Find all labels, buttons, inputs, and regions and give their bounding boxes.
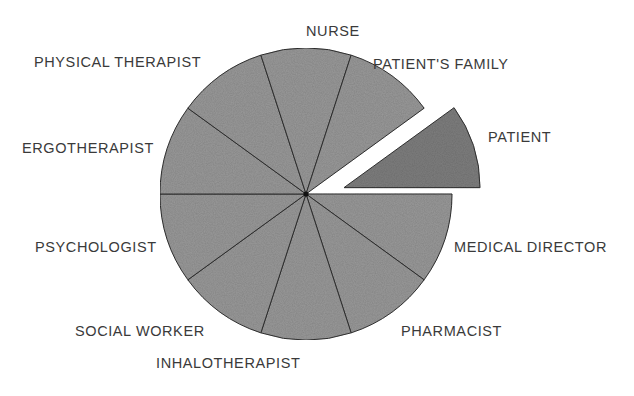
pie-diagram: NURSE PATIENT'S FAMILY PHYSICAL THERAPIS… (0, 0, 634, 396)
label-physical-therapist: PHYSICAL THERAPIST (34, 55, 201, 70)
label-psychologist: PSYCHOLOGIST (35, 240, 157, 255)
label-social-worker: SOCIAL WORKER (75, 324, 205, 339)
label-ergotherapist: ERGOTHERAPIST (22, 141, 154, 156)
label-nurse: NURSE (306, 24, 360, 39)
label-patients-family: PATIENT'S FAMILY (373, 57, 509, 72)
label-medical-director: MEDICAL DIRECTOR (454, 240, 607, 255)
label-pharmacist: PHARMACIST (401, 324, 502, 339)
center-dot (303, 191, 308, 196)
label-inhalotherapist: INHALOTHERAPIST (156, 356, 300, 371)
label-patient: PATIENT (488, 130, 551, 145)
